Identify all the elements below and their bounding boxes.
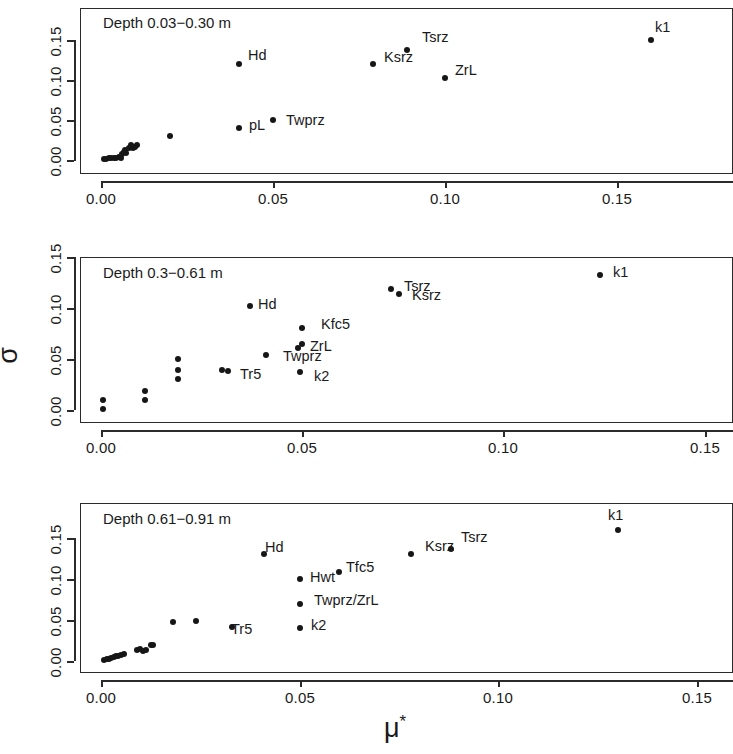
data-point <box>442 75 448 81</box>
data-point <box>297 601 303 607</box>
point-label: Twprz <box>286 113 325 128</box>
data-point <box>175 356 181 362</box>
point-label: Ksrz <box>425 539 454 554</box>
point-label: k1 <box>608 508 623 523</box>
data-point <box>100 397 106 403</box>
data-point <box>236 61 242 67</box>
data-point <box>167 133 173 139</box>
data-point <box>597 272 603 278</box>
data-point <box>193 618 199 624</box>
data-point <box>299 325 305 331</box>
data-point <box>142 388 148 394</box>
data-point <box>396 291 402 297</box>
data-point <box>143 647 149 653</box>
data-point <box>175 367 181 373</box>
point-label: k2 <box>311 618 326 633</box>
data-point <box>263 352 269 358</box>
point-label: k1 <box>613 265 628 280</box>
data-point <box>219 367 225 373</box>
data-point <box>121 651 127 657</box>
data-point <box>648 37 654 43</box>
data-point <box>100 406 106 412</box>
point-label: Hd <box>248 48 267 63</box>
data-point <box>297 576 303 582</box>
data-point <box>225 368 231 374</box>
figure-scatter-panels: 0.15 0.10 0.05 0.00 0.00 0.05 0.10 0.15 … <box>0 0 733 754</box>
point-label: Twprz <box>283 349 322 364</box>
data-point <box>170 619 176 625</box>
point-label: Hwt <box>310 570 335 585</box>
data-point <box>388 286 394 292</box>
data-point <box>247 303 253 309</box>
data-point-overlay: HdpLTwprzKsrzTsrzZrLk1HdTr5Kfc5ZrLTwprzk… <box>0 0 733 754</box>
point-label: ZrL <box>455 63 477 78</box>
data-point <box>134 142 140 148</box>
point-label: pL <box>249 118 265 133</box>
point-label: k2 <box>314 369 329 384</box>
data-point <box>370 61 376 67</box>
data-point <box>123 150 129 156</box>
point-label: Twprz/ZrL <box>314 593 378 608</box>
data-point <box>175 376 181 382</box>
data-point <box>297 369 303 375</box>
data-point <box>336 569 342 575</box>
data-point <box>150 642 156 648</box>
point-label: Ksrz <box>384 50 413 65</box>
point-label: Tr5 <box>231 622 252 637</box>
point-label: Kfc5 <box>321 317 350 332</box>
point-label: Hd <box>258 297 277 312</box>
point-label: Ksrz <box>412 288 441 303</box>
point-label: Tsrz <box>461 530 488 545</box>
data-point <box>299 341 305 347</box>
point-label: k1 <box>655 20 670 35</box>
point-label: Tr5 <box>240 367 261 382</box>
point-label: Hd <box>265 540 284 555</box>
data-point <box>408 551 414 557</box>
data-point <box>142 397 148 403</box>
data-point <box>615 527 621 533</box>
point-label: Tfc5 <box>346 560 374 575</box>
data-point <box>270 117 276 123</box>
point-label: Tsrz <box>422 30 449 45</box>
data-point <box>236 125 242 131</box>
data-point <box>297 625 303 631</box>
